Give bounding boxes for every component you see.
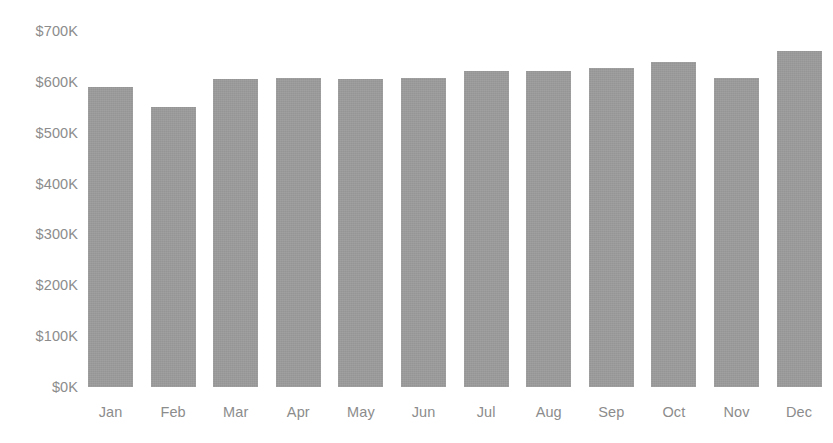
bar-oct[interactable] bbox=[651, 62, 696, 387]
bar-apr[interactable] bbox=[276, 78, 321, 387]
bar-feb[interactable] bbox=[151, 107, 196, 387]
bar-sep[interactable] bbox=[589, 68, 634, 387]
bar-jul[interactable] bbox=[464, 71, 509, 387]
bar-jan[interactable] bbox=[88, 87, 133, 387]
x-axis-tick-label: Aug bbox=[536, 405, 562, 420]
plot-area: JanFebMarAprMayJunJulAugSepOctNovDec bbox=[0, 0, 833, 443]
x-axis-tick-label: Oct bbox=[662, 405, 685, 420]
bar-jun[interactable] bbox=[401, 78, 446, 387]
bar-chart: $0K$100K$200K$300K$400K$500K$600K$700K J… bbox=[0, 0, 833, 443]
x-axis-tick-label: Jul bbox=[477, 405, 496, 420]
x-axis-tick-label: Nov bbox=[723, 405, 749, 420]
bar-aug[interactable] bbox=[526, 71, 571, 387]
x-axis-tick-label: Jun bbox=[412, 405, 436, 420]
bar-mar[interactable] bbox=[213, 79, 258, 387]
x-axis-tick-label: Dec bbox=[786, 405, 812, 420]
x-axis-tick-label: Jan bbox=[99, 405, 123, 420]
x-axis-tick-label: May bbox=[347, 405, 375, 420]
x-axis-tick-label: Feb bbox=[160, 405, 185, 420]
x-axis-tick-label: Sep bbox=[598, 405, 624, 420]
bar-nov[interactable] bbox=[714, 78, 759, 387]
x-axis-tick-label: Apr bbox=[287, 405, 310, 420]
x-axis-tick-label: Mar bbox=[223, 405, 248, 420]
bar-may[interactable] bbox=[338, 79, 383, 387]
bar-dec[interactable] bbox=[777, 51, 822, 387]
